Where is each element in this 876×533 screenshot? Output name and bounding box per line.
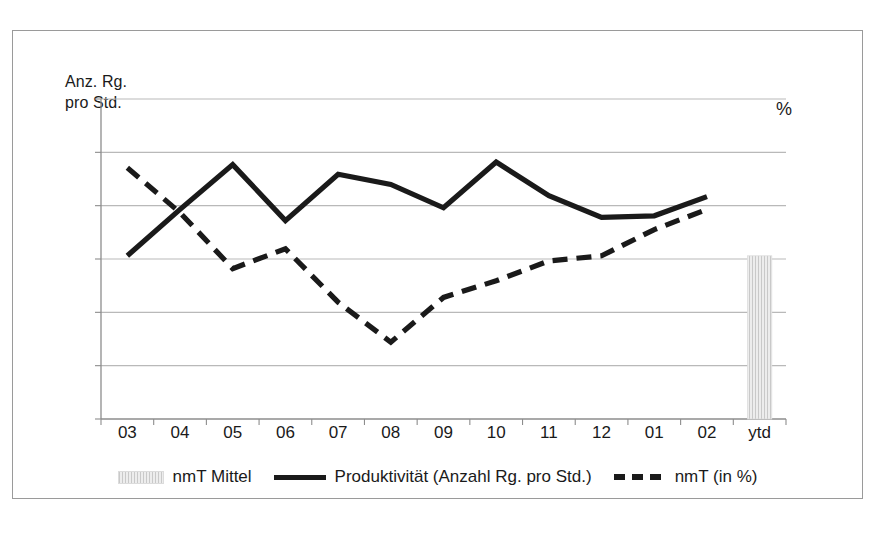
nmt-mittel-bars — [748, 256, 772, 419]
bar-swatch-icon — [118, 471, 164, 484]
x-axis-label: 11 — [523, 423, 575, 443]
legend-item-nmt-percent: nmT (in %) — [614, 467, 758, 487]
x-axis-label: 01 — [628, 423, 680, 443]
chart-legend: nmT Mittel Produktivität (Anzahl Rg. pro… — [13, 462, 862, 492]
chart-canvas — [101, 99, 786, 419]
plot-area — [101, 99, 786, 419]
x-axis-label: 04 — [154, 423, 206, 443]
x-axis-label: 08 — [365, 423, 417, 443]
x-axis-label: 10 — [470, 423, 522, 443]
legend-item-produktivitaet: Produktivität (Anzahl Rg. pro Std.) — [274, 467, 592, 487]
legend-label-produktivitaet: Produktivität (Anzahl Rg. pro Std.) — [335, 467, 592, 487]
legend-label-nmt-mittel: nmT Mittel — [173, 467, 252, 487]
x-axis-label: 09 — [418, 423, 470, 443]
legend-item-nmt-mittel: nmT Mittel — [118, 467, 252, 487]
legend-label-nmt-percent: nmT (in %) — [675, 467, 758, 487]
x-axis-label: 06 — [259, 423, 311, 443]
x-axis-ticks — [95, 99, 786, 425]
x-axis-label: 12 — [576, 423, 628, 443]
gridlines — [101, 99, 786, 419]
x-axis-label: 02 — [681, 423, 733, 443]
x-axis-label: ytd — [734, 423, 786, 443]
x-axis-label: 03 — [101, 423, 153, 443]
x-axis-label: 07 — [312, 423, 364, 443]
series-produktivitaet-line — [127, 162, 707, 256]
dashed-line-swatch-icon — [614, 474, 666, 480]
chart-frame: Anz. Rg. pro Std. % 03040506070809101112… — [12, 30, 863, 499]
solid-line-swatch-icon — [274, 475, 326, 480]
x-axis-labels: 030405060708091011120102ytd — [101, 423, 786, 449]
x-axis-label: 05 — [207, 423, 259, 443]
nmt-mittel-bar — [748, 256, 772, 419]
